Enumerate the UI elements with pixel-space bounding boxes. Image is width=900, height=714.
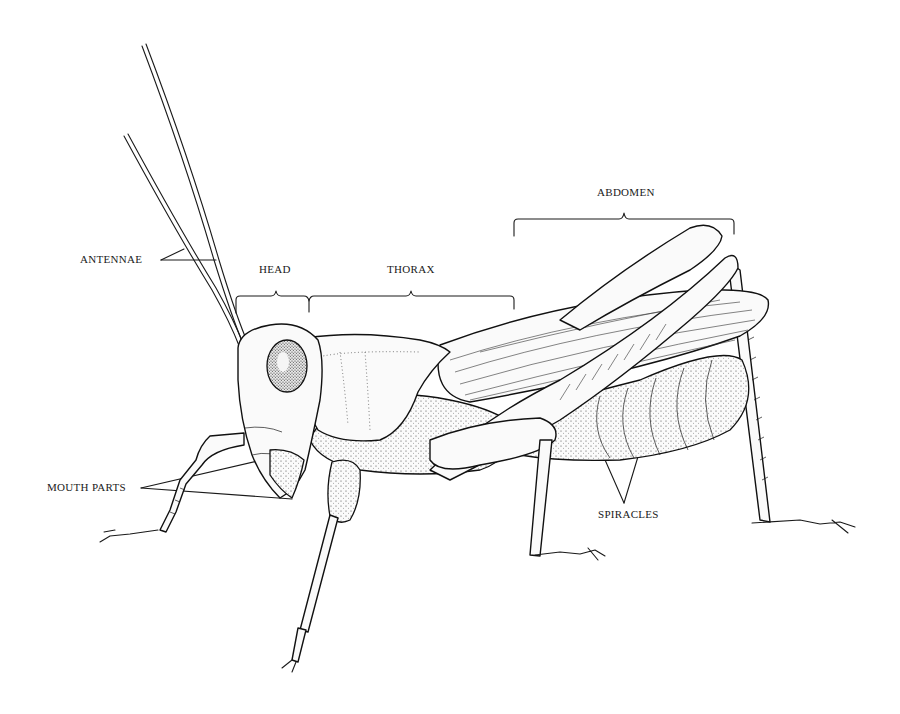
antennae: [124, 44, 249, 348]
label-abdomen: ABDOMEN: [597, 186, 655, 198]
grasshopper-illustration: [0, 0, 900, 714]
head: [238, 324, 322, 498]
label-mouth-parts: MOUTH PARTS: [47, 481, 126, 493]
grasshopper-diagram: ANTENNAE HEAD THORAX ABDOMEN MOUTH PARTS…: [0, 0, 900, 714]
label-thorax: THORAX: [387, 263, 435, 275]
label-spiracles: SPIRACLES: [598, 508, 659, 520]
label-antennae: ANTENNAE: [80, 253, 142, 265]
label-head: HEAD: [259, 263, 291, 275]
